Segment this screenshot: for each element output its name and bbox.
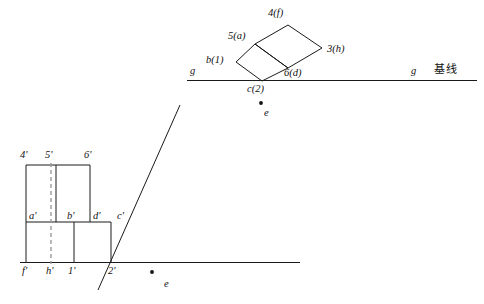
- label-lower-bprime: b': [67, 211, 75, 222]
- upper-small-square: [236, 44, 288, 81]
- label-vertex-c2: c(2): [247, 84, 264, 95]
- technical-drawing-figure: 4(f) 5(a) 3(h) 6(d) b(1) c(2) g g 基线 e 4…: [0, 0, 484, 304]
- label-baseline-g-left: g: [190, 66, 195, 77]
- label-lower-6prime: 6': [84, 150, 92, 161]
- label-lower-point-e: e: [164, 279, 169, 290]
- label-lower-5prime: 5': [45, 150, 53, 161]
- label-lower-aprime: a': [29, 211, 37, 222]
- upper-point-e-dot: [259, 101, 263, 105]
- label-lower-hprime: h': [46, 266, 54, 277]
- label-lower-fprime: f': [22, 266, 27, 277]
- label-lower-2prime: 2': [108, 266, 116, 277]
- label-baseline-g-right: g: [411, 66, 416, 77]
- upper-large-square: [255, 25, 322, 68]
- label-lower-1prime: 1': [68, 266, 76, 277]
- label-lower-dprime: d': [93, 211, 101, 222]
- label-vertex-3h: 3(h): [327, 44, 345, 55]
- label-upper-point-e: e: [264, 108, 269, 119]
- label-lower-4prime: 4': [20, 150, 28, 161]
- label-vertex-b1: b(1): [206, 55, 224, 66]
- drawing-canvas: [0, 0, 484, 304]
- label-vertex-4f: 4(f): [268, 8, 283, 19]
- label-vertex-5a: 5(a): [228, 31, 246, 42]
- lower-point-e-dot: [150, 270, 154, 274]
- label-vertex-6d: 6(d): [284, 68, 302, 79]
- label-baseline-caption: 基线: [434, 64, 457, 75]
- label-lower-cprime: c': [117, 211, 124, 222]
